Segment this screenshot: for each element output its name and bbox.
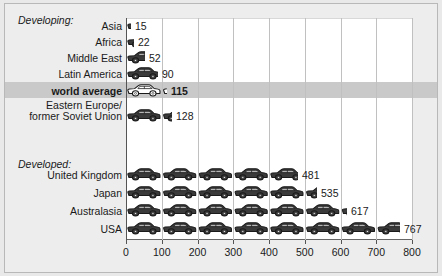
value-label: 481: [302, 169, 320, 181]
x-tick-label: 500: [285, 246, 325, 258]
pictogram-chart: AsiaAfricaMiddle EastLatin Americaworld …: [0, 0, 442, 276]
x-tick-label: 400: [249, 246, 289, 258]
bar-row: [126, 82, 167, 97]
x-tick-label: 800: [392, 246, 432, 258]
bar-row: [126, 107, 172, 122]
gridline-800: [412, 18, 413, 240]
bar-row: [126, 49, 145, 64]
bar-row: [126, 202, 347, 217]
value-label: 617: [351, 205, 369, 217]
bar-row: [126, 33, 134, 48]
gridline-700: [376, 18, 377, 240]
category-label: United Kingdom: [2, 170, 122, 181]
bar-row: [126, 166, 298, 181]
value-label: 52: [149, 52, 161, 64]
category-label: Eastern Europe/ former Soviet Union: [2, 100, 122, 122]
x-tick-label: 0: [106, 246, 146, 258]
x-tick-mark: [233, 240, 234, 244]
x-tick-label: 100: [142, 246, 182, 258]
category-label: USA: [2, 224, 122, 235]
section-heading-developing: Developing:: [18, 14, 73, 26]
x-tick-mark: [198, 240, 199, 244]
category-label: Middle East: [2, 53, 122, 64]
value-label: 128: [176, 110, 194, 122]
x-tick-label: 300: [213, 246, 253, 258]
x-tick-label: 200: [178, 246, 218, 258]
x-tick-mark: [126, 240, 127, 244]
x-tick-label: 600: [321, 246, 361, 258]
value-label: 115: [171, 85, 188, 97]
section-heading-developed: Developed:: [18, 158, 71, 170]
category-label: Latin America: [2, 69, 122, 80]
x-tick-label: 700: [356, 246, 396, 258]
category-label-column: AsiaAfricaMiddle EastLatin Americaworld …: [0, 0, 122, 276]
category-label: Africa: [2, 37, 122, 48]
bar-row: [126, 220, 400, 235]
x-tick-mark: [341, 240, 342, 244]
category-label: Japan: [2, 188, 122, 199]
category-label: Australasia: [2, 206, 122, 217]
x-tick-mark: [412, 240, 413, 244]
x-tick-mark: [305, 240, 306, 244]
value-label: 535: [321, 187, 339, 199]
x-tick-mark: [269, 240, 270, 244]
bar-row: [126, 184, 317, 199]
value-label: 22: [138, 36, 150, 48]
category-label: world average: [2, 86, 122, 97]
x-tick-mark: [162, 240, 163, 244]
value-label: 767: [404, 223, 422, 235]
value-label: 90: [162, 68, 174, 80]
bar-row: [126, 17, 131, 32]
bar-row: [126, 65, 158, 80]
value-label: 15: [135, 20, 147, 32]
x-tick-mark: [376, 240, 377, 244]
